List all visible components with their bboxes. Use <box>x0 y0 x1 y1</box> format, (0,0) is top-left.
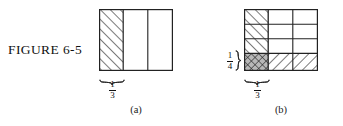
panel-b-fraction-one-fourth: 1 4 <box>222 51 238 72</box>
panel-a-caption: (a) <box>111 104 161 115</box>
panel-a-shaded-cell <box>100 10 124 71</box>
panel-a-fraction-one-third: 1 3 <box>100 80 125 101</box>
panel-b-diagram <box>244 9 318 71</box>
fraction-a-numerator: 1 <box>109 80 116 89</box>
panel-b-fraction-one-third: 1 3 <box>245 80 270 101</box>
panel-b-hatched-cell-r0c0 <box>245 10 269 25</box>
fraction-b-left: 1 4 <box>227 51 234 71</box>
figure-container: FIGURE 6-5 1 <box>0 0 343 126</box>
panel-b-hatched-cell-r1c0 <box>245 24 269 39</box>
panel-a-diagram <box>99 9 173 71</box>
panel-b-caption: (b) <box>256 104 306 115</box>
panel-a-svg <box>99 9 173 71</box>
fraction-a: 1 3 <box>109 80 116 100</box>
panel-b-svg <box>244 9 318 71</box>
fraction-b-denominator: 3 <box>254 91 261 100</box>
figure-label: FIGURE 6-5 <box>8 42 82 58</box>
fraction-b-left-numerator: 1 <box>227 51 234 60</box>
panel-b-hatched-cell-r3c1 <box>268 53 293 70</box>
panel-b-hatched-cell-r3c2 <box>293 53 318 70</box>
panel-b-hatched-cell-r2c0 <box>245 39 269 54</box>
fraction-b-numerator: 1 <box>254 80 261 89</box>
fraction-b: 1 3 <box>254 80 261 100</box>
fraction-b-left-denominator: 4 <box>227 62 234 71</box>
fraction-a-denominator: 3 <box>109 91 116 100</box>
panel-b-crosshatched-cell-r3c0 <box>245 53 269 70</box>
